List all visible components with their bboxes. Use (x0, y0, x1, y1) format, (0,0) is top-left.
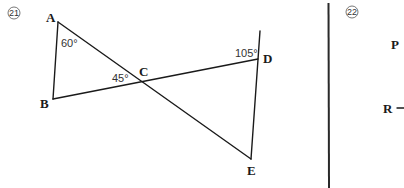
problem-22-number: 22 (346, 6, 358, 18)
point-label-r: R (383, 101, 393, 116)
point-label-e: E (247, 163, 256, 178)
angle-label-c: 45° (112, 72, 129, 84)
svg-text:22: 22 (347, 7, 357, 17)
point-label-c: C (139, 64, 148, 79)
angle-label-d: 105° (235, 47, 258, 59)
segment-ab (53, 22, 58, 99)
angle-label-a: 60° (61, 37, 78, 49)
problem-21-number: 21 (8, 7, 20, 19)
geometry-figure: 21 A B C D E 60° 45° 105° 22 P R (0, 0, 404, 188)
segment-ae (58, 22, 251, 159)
point-label-b: B (40, 96, 49, 111)
svg-text:21: 21 (9, 8, 19, 18)
segment-bd (53, 59, 258, 99)
point-label-a: A (46, 10, 56, 25)
point-label-p: P (391, 37, 399, 52)
column-divider (329, 3, 330, 188)
point-label-d: D (263, 51, 272, 66)
